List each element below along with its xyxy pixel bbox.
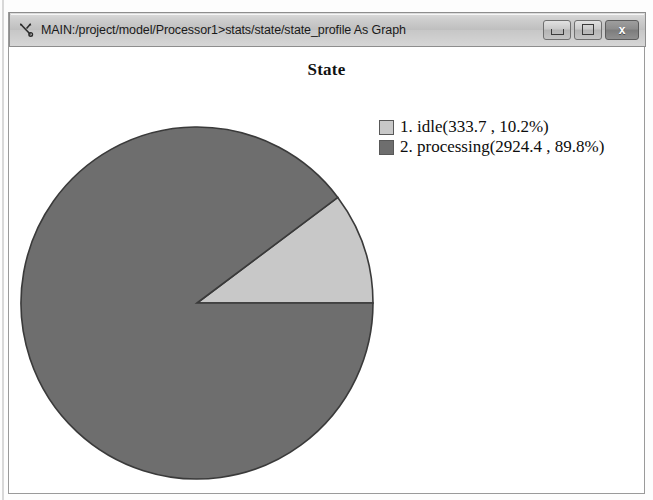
crossed-tools-icon [18, 21, 35, 38]
minimize-icon [551, 29, 564, 35]
scan-edge-line [2, 0, 4, 500]
graph-window: MAIN:/project/model/Processor1>stats/sta… [8, 12, 645, 494]
close-button[interactable]: x [605, 20, 639, 40]
legend-item: 1. idle(333.7 , 10.2%) [379, 117, 641, 137]
window-titlebar[interactable]: MAIN:/project/model/Processor1>stats/sta… [9, 12, 646, 47]
pie-slice [21, 127, 373, 479]
maximize-icon [582, 24, 594, 35]
legend-label: 2. processing(2924.4 , 89.8%) [400, 137, 604, 157]
legend-label: 1. idle(333.7 , 10.2%) [400, 117, 549, 137]
legend-swatch [379, 140, 394, 155]
legend-swatch [379, 120, 394, 135]
chart-legend: 1. idle(333.7 , 10.2%)2. processing(2924… [379, 117, 641, 157]
pie-chart [9, 47, 644, 492]
window-controls: x [543, 20, 641, 40]
legend-item: 2. processing(2924.4 , 89.8%) [379, 137, 641, 157]
minimize-button[interactable] [543, 20, 571, 40]
window-title: MAIN:/project/model/Processor1>stats/sta… [41, 23, 543, 37]
page-backdrop: MAIN:/project/model/Processor1>stats/sta… [0, 0, 653, 500]
chart-client-area: State 1. idle(333.7 , 10.2%)2. processin… [9, 47, 644, 492]
maximize-button[interactable] [574, 20, 602, 40]
close-icon: x [619, 24, 626, 36]
